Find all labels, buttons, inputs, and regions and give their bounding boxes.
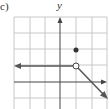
- y-axis-arrow-icon: [58, 17, 63, 23]
- plot: [14, 48, 108, 100]
- filled-point: [74, 48, 79, 53]
- left-ray-arrow-icon: [14, 63, 21, 69]
- graph: [0, 0, 110, 109]
- axes: [14, 17, 107, 109]
- x-axis-arrow-icon: [101, 80, 107, 85]
- open-point: [73, 63, 79, 69]
